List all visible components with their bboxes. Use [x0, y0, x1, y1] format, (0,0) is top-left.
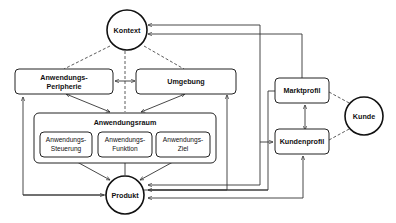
ziel-label-1: Anwendungs-: [163, 136, 203, 144]
peripherie-label-1: Anwendungs-: [40, 73, 88, 82]
anwendungsraum-label: Anwendungsraum: [94, 118, 157, 127]
edge-peripherie-anwendungsraum: [66, 94, 110, 112]
funktion-label-1: Anwendungs-: [105, 136, 145, 144]
produkt-label: Produkt: [111, 191, 139, 200]
ziel-label-2: Ziel: [178, 145, 189, 152]
node-anwendungs-ziel[interactable]: Anwendungs- Ziel: [156, 132, 210, 157]
funktion-label-2: Funktion: [112, 145, 138, 152]
node-kundenprofil[interactable]: Kundenprofil: [275, 129, 329, 154]
kontext-label: Kontext: [114, 26, 141, 35]
steuerung-label-2: Steuerung: [51, 145, 82, 153]
kunde-label: Kunde: [353, 112, 375, 121]
node-anwendungs-steuerung[interactable]: Anwendungs- Steuerung: [40, 132, 92, 157]
kundenprofil-label: Kundenprofil: [280, 137, 325, 146]
node-kontext[interactable]: Kontext: [107, 10, 147, 50]
peripherie-label-2: Peripherie: [46, 82, 81, 91]
node-anwendungs-peripherie[interactable]: Anwendungs- Peripherie: [15, 69, 113, 94]
umgebung-label: Umgebung: [167, 77, 205, 86]
edge-umgebung-anwendungsraum: [141, 94, 185, 112]
edge-kunde-marktprofil: [329, 92, 351, 104]
node-umgebung[interactable]: Umgebung: [136, 69, 236, 94]
steuerung-label-1: Anwendungs-: [46, 136, 86, 144]
marktprofil-label: Marktprofil: [283, 86, 320, 95]
node-anwendungs-funktion[interactable]: Anwendungs- Funktion: [98, 132, 152, 157]
node-produkt[interactable]: Produkt: [106, 176, 144, 214]
edge-kontext-umgebung: [144, 46, 184, 69]
edge-kontext-peripherie: [64, 46, 110, 69]
node-kunde[interactable]: Kunde: [345, 97, 383, 135]
diagram-canvas: Kontext Anwendungs- Peripherie Umgebung …: [0, 0, 396, 223]
edge-kunde-kundenprofil: [329, 128, 351, 140]
node-marktprofil[interactable]: Marktprofil: [275, 78, 329, 103]
produkt-edges: [23, 25, 305, 198]
